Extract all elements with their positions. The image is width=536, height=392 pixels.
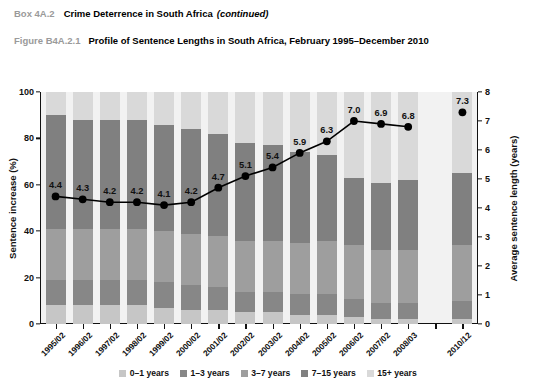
legend-swatch-icon — [367, 370, 374, 377]
bar-segment — [344, 178, 364, 245]
bar-segment — [73, 120, 93, 229]
y-axis-left-tick — [36, 138, 40, 139]
y-axis-right-tick-label: 5 — [485, 174, 490, 184]
stacked-bar[interactable] — [154, 92, 174, 324]
stacked-bar[interactable] — [398, 92, 418, 324]
y-axis-right-tick — [478, 178, 482, 179]
bar-segment — [263, 292, 283, 313]
y-axis-right-title-text: Average sentence length (years) — [509, 135, 520, 281]
stacked-bar[interactable] — [46, 92, 66, 324]
y-axis-right-tick-label: 3 — [485, 232, 490, 242]
bar-segment — [317, 155, 337, 241]
bar-segment — [181, 285, 201, 311]
bar-segment — [208, 92, 228, 134]
legend-item[interactable]: 7–15 years — [301, 368, 355, 378]
bar-segment — [452, 173, 472, 245]
bar-segment — [317, 294, 337, 315]
bar-segment — [317, 315, 337, 324]
y-axis-right-tick-label: 4 — [485, 203, 490, 213]
box-title: Crime Deterrence in South Africa — [64, 8, 213, 19]
x-axis-tick-label: 2004/02 — [282, 330, 310, 358]
bar-segment — [235, 241, 255, 292]
legend-swatch-icon — [241, 370, 248, 377]
x-axis-tick — [300, 324, 301, 329]
bar-segment — [290, 243, 310, 294]
bar-segment — [127, 120, 147, 229]
x-axis-tick-label: 2003/02 — [255, 330, 283, 358]
y-axis-left-tick-label: 80 — [24, 133, 34, 143]
line-point-label: 4.4 — [49, 180, 62, 190]
x-axis-tick — [408, 324, 409, 329]
bar-segment — [398, 250, 418, 303]
y-axis-right-title: Average sentence length (years) — [507, 92, 521, 324]
line-point-label: 7.3 — [456, 96, 469, 106]
y-axis-left-tick-label: 100 — [19, 87, 34, 97]
y-axis-right-tick-label: 6 — [485, 145, 490, 155]
y-axis-right-tick — [478, 149, 482, 150]
legend-item[interactable]: 3–7 years — [241, 368, 291, 378]
y-axis-left-tick-label: 60 — [24, 180, 34, 190]
line-point-label: 5.1 — [239, 160, 252, 170]
stacked-bar[interactable] — [263, 92, 283, 324]
x-axis-tick-label: 2008/03 — [391, 330, 419, 358]
bar-segment — [154, 231, 174, 282]
y-axis-right-tick — [478, 323, 482, 324]
bar-slot — [123, 92, 150, 324]
x-axis-tick-label: 1999/02 — [147, 330, 175, 358]
bar-slot — [259, 92, 286, 324]
legend-label: 0–1 years — [130, 368, 169, 378]
stacked-bar[interactable] — [127, 92, 147, 324]
stacked-bar[interactable] — [371, 92, 391, 324]
bar-segment — [181, 129, 201, 233]
stacked-bar[interactable] — [181, 92, 201, 324]
legend-item[interactable]: 1–3 years — [180, 368, 230, 378]
y-axis-right-tick-label: 0 — [485, 319, 490, 329]
bar-segment — [452, 301, 472, 320]
y-axis-right-tick — [478, 265, 482, 266]
bar-slot — [96, 92, 123, 324]
legend-item[interactable]: 15+ years — [367, 368, 417, 378]
line-point-label: 6.9 — [375, 108, 388, 118]
bar-segment — [100, 280, 120, 306]
bar-segment — [317, 92, 337, 155]
stacked-bar[interactable] — [452, 92, 472, 324]
x-axis-tick-label: 1997/02 — [93, 330, 121, 358]
figure-title: Profile of Sentence Lengths in South Afr… — [89, 35, 429, 46]
bar-segment — [46, 280, 66, 306]
stacked-bar[interactable] — [235, 92, 255, 324]
bar-slot — [368, 92, 395, 324]
stacked-bar[interactable] — [208, 92, 228, 324]
bar-slot — [69, 92, 96, 324]
stacked-bar[interactable] — [290, 92, 310, 324]
stacked-bar[interactable] — [100, 92, 120, 324]
bar-segment — [73, 305, 93, 324]
x-axis-tick — [273, 324, 274, 329]
bar-segment — [371, 250, 391, 303]
box-tag: Box 4A.2 — [14, 8, 55, 19]
bar-slot — [42, 92, 69, 324]
line-point-label: 4.3 — [76, 183, 89, 193]
bar-segment — [235, 92, 255, 143]
figure-tag: Figure B4A.2.1 — [14, 35, 81, 46]
y-axis-right-tick-label: 2 — [485, 261, 490, 271]
bar-segment — [154, 282, 174, 308]
x-axis-tick — [218, 324, 219, 329]
bar-segment — [46, 229, 66, 280]
bar-segment — [371, 303, 391, 319]
bar-segment — [208, 134, 228, 236]
x-axis-tick-label: 2006/02 — [337, 330, 365, 358]
y-axis-right-tick-label: 8 — [485, 87, 490, 97]
box-continued-note: (continued) — [217, 8, 269, 19]
stacked-bar[interactable] — [73, 92, 93, 324]
x-axis-tick — [191, 324, 192, 329]
bar-segment — [235, 312, 255, 324]
line-point-label: 4.2 — [130, 186, 143, 196]
legend-item[interactable]: 0–1 years — [119, 368, 169, 378]
bar-segment — [100, 120, 120, 229]
bar-segment — [100, 305, 120, 324]
x-axis-tick — [354, 324, 355, 329]
y-axis-left-tick-label: 0 — [29, 319, 34, 329]
line-point-label: 5.9 — [293, 137, 306, 147]
stacked-bar[interactable] — [344, 92, 364, 324]
chart-plot-area: 4.44.34.24.24.14.24.75.15.45.96.37.06.96… — [40, 92, 478, 324]
